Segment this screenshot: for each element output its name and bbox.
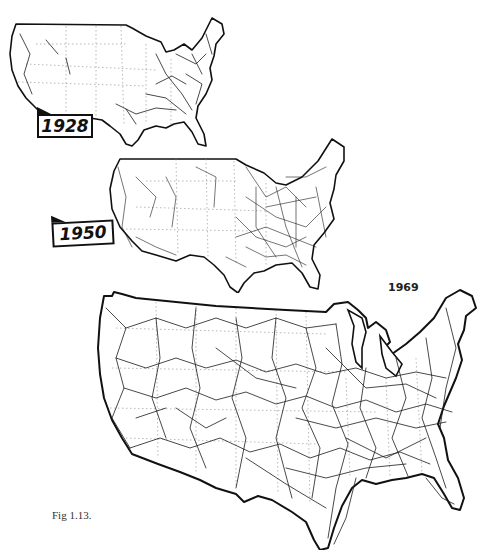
map-1950 [106,137,352,293]
figure-caption: Fig 1.13. [52,509,91,521]
us-outline-1969 [96,288,480,550]
year-label-1928: 1928 [37,114,93,138]
map-1969 [96,288,480,550]
us-outline-1950 [106,137,352,293]
year-label-1950: 1950 [51,219,114,247]
